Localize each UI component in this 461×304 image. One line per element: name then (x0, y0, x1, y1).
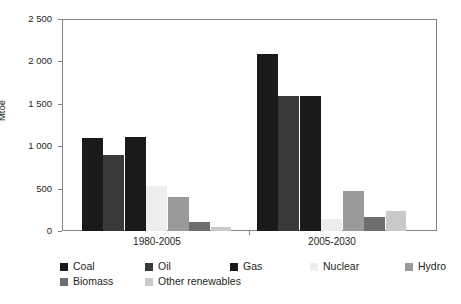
bar-hydro-1980-2005 (168, 197, 189, 231)
legend-item-nuclear[interactable]: Nuclear (310, 259, 359, 274)
legend-item-hydro[interactable]: Hydro (405, 259, 446, 274)
legend-label: Biomass (73, 276, 113, 287)
bar-nuclear-2005-2030 (321, 219, 342, 231)
legend-label: Gas (243, 261, 262, 272)
bar-nuclear-1980-2005 (146, 186, 167, 231)
legend-label: Hydro (418, 261, 446, 272)
legend-swatch-icon (60, 278, 68, 286)
legend-item-oil[interactable]: Oil (145, 259, 171, 274)
legend-swatch-icon (230, 263, 238, 271)
legend-label: Nuclear (323, 261, 359, 272)
legend-swatch-icon (310, 263, 318, 271)
y-axis-tick-mark (58, 146, 62, 147)
y-axis-tick-label: 1 000 (28, 141, 52, 151)
legend-swatch-icon (405, 263, 413, 271)
chart-legend: CoalOilGasNuclearHydro BiomassOther rene… (60, 259, 460, 289)
legend-item-other-renewables[interactable]: Other renewables (145, 274, 241, 289)
x-axis-label-1980-2005: 1980-2005 (107, 236, 207, 247)
x-axis-label-2005-2030: 2005-2030 (282, 236, 382, 247)
y-axis-tick-label: 500 (36, 184, 52, 194)
bar-gas-1980-2005 (125, 137, 146, 231)
bar-oil-1980-2005 (103, 155, 124, 231)
x-axis-tick-mark (249, 231, 250, 235)
legend-row-primary: CoalOilGasNuclearHydro (60, 259, 460, 274)
bar-oil-2005-2030 (278, 96, 299, 231)
legend-label: Oil (158, 261, 171, 272)
legend-label: Other renewables (158, 276, 241, 287)
y-axis-tick-mark (58, 231, 62, 232)
chart-title: in the Reference Scenario (0, 0, 461, 2)
y-axis-tick-mark (58, 19, 62, 20)
legend-row-secondary: BiomassOther renewables (60, 274, 460, 289)
bar-biomass-2005-2030 (364, 217, 385, 231)
bar-other-renewables-2005-2030 (386, 211, 407, 231)
legend-swatch-icon (145, 278, 153, 286)
legend-swatch-icon (60, 263, 68, 271)
legend-item-biomass[interactable]: Biomass (60, 274, 113, 289)
y-axis-tick-mark (58, 189, 62, 190)
bar-series-group (62, 19, 437, 231)
y-axis-tick-label: 2 500 (28, 14, 52, 24)
y-axis-tick-label: 0 (47, 226, 52, 236)
bar-gas-2005-2030 (300, 96, 321, 231)
legend-label: Coal (73, 261, 95, 272)
chart-container: in the Reference Scenario 05001 0001 500… (0, 0, 461, 304)
y-axis-tick-label: 2 000 (28, 57, 52, 67)
y-axis-tick-mark (58, 61, 62, 62)
bar-coal-1980-2005 (82, 138, 103, 231)
bar-hydro-2005-2030 (343, 191, 364, 231)
bar-coal-2005-2030 (257, 54, 278, 231)
y-axis-tick-mark (58, 104, 62, 105)
legend-item-coal[interactable]: Coal (60, 259, 95, 274)
y-axis-title: Mtoe (0, 100, 7, 121)
bar-biomass-1980-2005 (189, 222, 210, 231)
y-axis-tick-label: 1 500 (28, 99, 52, 109)
legend-item-gas[interactable]: Gas (230, 259, 262, 274)
legend-swatch-icon (145, 263, 153, 271)
y-axis-labels: 05001 0001 5002 0002 500 (0, 0, 58, 304)
bar-other-renewables-1980-2005 (211, 227, 232, 231)
